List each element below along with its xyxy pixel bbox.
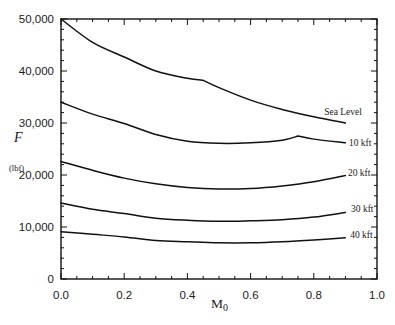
x-tick-label: 0.4 xyxy=(179,289,196,301)
curve-label-10-kft: 10 kft xyxy=(349,138,372,148)
y-tick-label: 0 xyxy=(48,273,54,285)
y-tick-label: 50,000 xyxy=(19,13,54,25)
x-axis-title-subscript: 0 xyxy=(223,302,228,313)
x-tick-label: 0.2 xyxy=(116,289,132,301)
curve-labels: Sea Level10 kft20 kft30 kft40 kft xyxy=(324,107,374,240)
curves xyxy=(61,19,345,243)
curve-40-kft xyxy=(61,232,345,243)
y-tick-labels: 010,00020,00030,00040,00050,000 xyxy=(19,13,54,285)
curve-label-40-kft: 40 kft xyxy=(350,230,373,240)
y-axis-title: F xyxy=(13,130,23,145)
x-tick-label: 0.6 xyxy=(243,289,259,301)
thrust-vs-mach-chart: 0.00.20.40.60.81.0 010,00020,00030,00040… xyxy=(0,0,395,325)
x-axis-title: M0 xyxy=(211,296,228,313)
curve-label-sea-level: Sea Level xyxy=(324,107,362,117)
axis-ticks xyxy=(61,19,377,279)
x-tick-label: 1.0 xyxy=(369,289,385,301)
curve-label-30-kft: 30 kft xyxy=(351,204,374,214)
curve-sea-level xyxy=(61,19,345,123)
curve-label-20-kft: 20 kft xyxy=(348,168,371,178)
plot-frame xyxy=(61,19,377,279)
y-tick-label: 40,000 xyxy=(19,65,54,77)
y-axis-unit: (lbf) xyxy=(9,163,24,173)
y-tick-label: 30,000 xyxy=(19,117,54,129)
x-tick-label: 0.8 xyxy=(306,289,322,301)
curve-20-kft xyxy=(61,161,345,189)
x-tick-label: 0.0 xyxy=(53,289,69,301)
y-tick-label: 10,000 xyxy=(19,221,54,233)
curve-30-kft xyxy=(61,203,345,221)
x-axis-title-main: M xyxy=(211,296,223,311)
curve-10-kft xyxy=(61,102,345,143)
